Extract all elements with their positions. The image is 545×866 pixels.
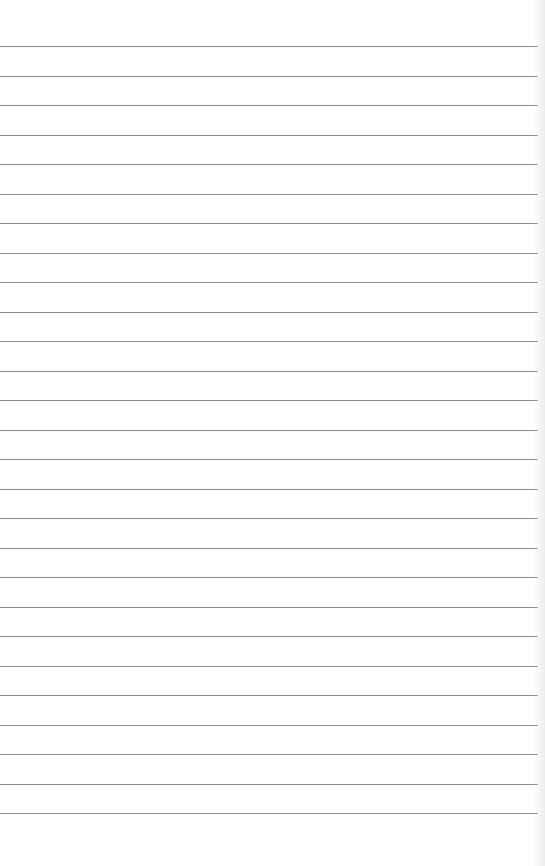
- ruled-line: [0, 400, 538, 401]
- ruled-line: [0, 76, 538, 77]
- ruled-line: [0, 105, 538, 106]
- page-edge-shadow: [533, 0, 545, 866]
- ruled-line: [0, 430, 538, 431]
- ruled-line: [0, 194, 538, 195]
- notepad-page: [0, 0, 545, 866]
- ruled-line: [0, 695, 538, 696]
- ruled-line: [0, 135, 538, 136]
- ruled-line: [0, 518, 538, 519]
- ruled-line: [0, 282, 538, 283]
- ruled-line: [0, 548, 538, 549]
- ruled-line: [0, 164, 538, 165]
- ruled-line: [0, 725, 538, 726]
- ruled-line: [0, 46, 538, 47]
- ruled-line: [0, 754, 538, 755]
- ruled-line: [0, 223, 538, 224]
- ruled-line: [0, 371, 538, 372]
- ruled-line: [0, 253, 538, 254]
- ruled-line: [0, 577, 538, 578]
- ruled-line: [0, 489, 538, 490]
- ruled-line: [0, 784, 538, 785]
- ruled-line: [0, 607, 538, 608]
- ruled-line: [0, 666, 538, 667]
- ruled-line: [0, 312, 538, 313]
- ruled-line: [0, 813, 538, 814]
- ruled-line: [0, 636, 538, 637]
- ruled-line: [0, 459, 538, 460]
- ruled-line: [0, 341, 538, 342]
